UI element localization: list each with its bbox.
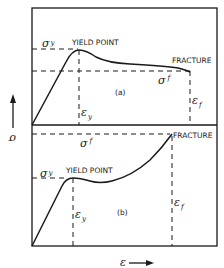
panel-a-curve [32,50,190,125]
panel-b-eps-f: εf [174,196,185,211]
panel-b-yield-label: YIELD POINT [65,166,113,175]
panel-b-eps-y: εy [75,208,87,223]
panel-a-caption: (a) [115,88,126,97]
panel-a: σy YIELD POINT FRACTURE σf (a) εy εf [32,37,212,125]
panel-a-eps-y: εy [81,106,93,121]
x-axis-arrow-icon [129,260,154,266]
panel-a-fracture-label: FRACTURE [172,56,212,65]
panel-b-reference-lines [32,134,172,246]
panel-a-eps-f: εf [192,94,203,109]
y-axis-label: σ [8,132,16,145]
panel-b-caption: (b) [117,208,128,217]
panel-a-sigma-y: σy [42,37,56,50]
y-axis-arrow-icon [10,94,16,128]
panel-a-reference-lines [32,49,190,125]
panel-b-fracture-label: FRACTURE [173,131,213,140]
panel-b: σf FRACTURE σy YIELD POINT εf (b) εy [32,131,213,246]
x-axis-label: ε [120,256,126,268]
panel-a-sigma-f: σf [158,74,172,87]
panel-b-curve [32,134,172,246]
stress-strain-figure: σ ε σy YIELD POINT FRACTURE σf (a) εy εf [0,0,224,268]
panel-b-sigma-f: σf [80,137,94,150]
panel-a-yield-label: YIELD POINT [71,38,119,47]
